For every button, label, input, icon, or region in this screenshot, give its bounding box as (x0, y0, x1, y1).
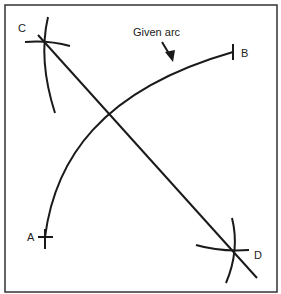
arc-c-vertical (44, 17, 55, 113)
label-given-arc: Given arc (133, 26, 181, 38)
label-c: C (18, 22, 26, 34)
arc-d-horizontal (196, 245, 249, 250)
label-a: A (27, 231, 35, 243)
bisector-line-cd (38, 35, 257, 278)
construction-diagram: C B A D Given arc (0, 0, 281, 294)
given-arc (45, 52, 233, 237)
label-d: D (254, 249, 262, 261)
label-b: B (241, 47, 248, 59)
arrow-head-icon (165, 50, 175, 62)
